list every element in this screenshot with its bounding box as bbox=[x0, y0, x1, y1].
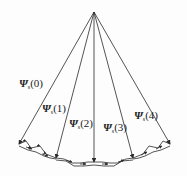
label-psi-s-1: Ψs(1) bbox=[42, 102, 66, 115]
psi-symbol: Ψ bbox=[69, 117, 78, 129]
psi-symbol: Ψ bbox=[103, 121, 112, 133]
vector-psi3-arrow bbox=[94, 12, 133, 158]
flux-trajectory bbox=[19, 141, 170, 166]
vector-fan-diagram: Ψs(0) Ψs(1) Ψs(2) Ψs(3) Ψs(4) bbox=[0, 0, 187, 176]
argument: (3) bbox=[114, 121, 127, 133]
label-psi-s-3: Ψs(3) bbox=[103, 121, 127, 134]
argument: (2) bbox=[80, 117, 93, 129]
vector-psi1-arrow bbox=[56, 12, 94, 158]
psi-symbol: Ψ bbox=[42, 102, 51, 114]
argument: (4) bbox=[145, 109, 158, 121]
argument: (1) bbox=[53, 102, 66, 114]
psi-symbol: Ψ bbox=[134, 109, 143, 121]
psi-symbol: Ψ bbox=[19, 77, 28, 89]
label-psi-s-0: Ψs(0) bbox=[19, 77, 43, 90]
label-psi-s-4: Ψs(4) bbox=[134, 109, 158, 122]
label-psi-s-2: Ψs(2) bbox=[69, 117, 93, 130]
argument: (0) bbox=[30, 77, 43, 89]
